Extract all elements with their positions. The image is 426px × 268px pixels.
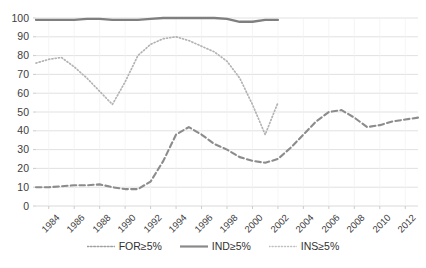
y-axis-tick-label: 90: [0, 31, 29, 41]
legend-label-for: FOR≥5%: [119, 241, 162, 252]
y-axis-tick-label: 30: [0, 144, 29, 154]
legend-label-ins: INS≥5%: [301, 241, 339, 252]
y-axis-tick-label: 100: [0, 13, 29, 23]
chart-container: 1984198619881990199219941996199820002002…: [0, 0, 426, 268]
y-axis-tick-label: 40: [0, 125, 29, 135]
legend-swatch-for: [87, 243, 115, 250]
legend-swatch-ind: [180, 243, 208, 250]
chart-legend: FOR≥5% IND≥5% INS≥5%: [0, 241, 426, 252]
y-axis-tick-label: 50: [0, 107, 29, 117]
legend-item-for[interactable]: FOR≥5%: [87, 241, 162, 252]
legend-swatch-ins: [269, 243, 297, 250]
legend-label-ind: IND≥5%: [212, 241, 251, 252]
y-axis-tick-label: 10: [0, 182, 29, 192]
series-line-ins: [36, 37, 278, 135]
legend-item-ind[interactable]: IND≥5%: [180, 241, 251, 252]
y-axis-tick-label: 80: [0, 50, 29, 60]
series-line-ind: [36, 18, 278, 22]
legend-item-ins[interactable]: INS≥5%: [269, 241, 339, 252]
y-axis-tick-label: 60: [0, 88, 29, 98]
y-axis-tick-label: 20: [0, 163, 29, 173]
y-axis-tick-label: 0: [0, 201, 29, 211]
y-axis-tick-label: 70: [0, 69, 29, 79]
